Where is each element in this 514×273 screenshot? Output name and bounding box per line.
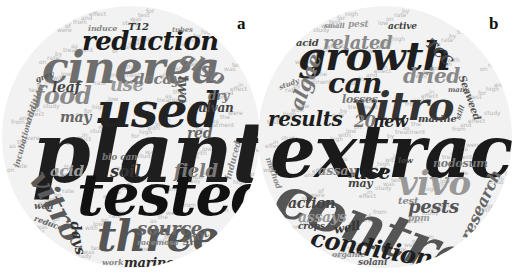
filler-word: on bbox=[195, 9, 202, 15]
cloud-word: ulvan bbox=[198, 102, 234, 114]
cloud-word: test bbox=[398, 196, 418, 206]
filler-word: for bbox=[146, 8, 154, 14]
filler-word: treatment bbox=[16, 22, 46, 28]
filler-word: as bbox=[24, 18, 31, 24]
filler-word: of bbox=[65, 23, 71, 29]
cloud-word: leaf bbox=[52, 80, 80, 94]
cloud-word: work bbox=[102, 258, 123, 266]
filler-word: in bbox=[20, 232, 25, 238]
filler-word: in bbox=[258, 6, 263, 12]
cloud-word: well bbox=[34, 202, 54, 211]
word-cloud-b: inwererateforeffecttheontestandaslowwasf… bbox=[258, 6, 512, 268]
cloud-word: may bbox=[60, 110, 91, 124]
filler-word: treatment bbox=[457, 29, 487, 35]
filler-word: of bbox=[221, 231, 227, 237]
filler-word: as bbox=[262, 50, 269, 56]
cloud-word: solani bbox=[358, 258, 387, 267]
cloud-word: T12 bbox=[128, 22, 149, 32]
cloud-word: losses bbox=[342, 94, 378, 105]
cloud-word: active bbox=[388, 22, 417, 31]
filler-word: high bbox=[248, 54, 260, 60]
filler-word: of bbox=[18, 256, 24, 262]
filler-word: rate bbox=[503, 195, 512, 201]
cloud-word: may bbox=[348, 178, 373, 189]
filler-word: for bbox=[290, 248, 298, 254]
filler-word: rate bbox=[250, 30, 260, 36]
panel-label-b: b bbox=[489, 14, 498, 34]
cloud-word: soil bbox=[110, 164, 141, 180]
filler-word: were bbox=[451, 9, 466, 15]
cloud-word: pest bbox=[348, 20, 369, 29]
cloud-word: tubes bbox=[172, 26, 193, 33]
filler-word: by bbox=[8, 26, 15, 32]
cloud-word: action bbox=[288, 196, 335, 210]
cloud-word: small bbox=[324, 22, 345, 29]
cloud-word: induce bbox=[88, 24, 117, 32]
cloud-word: assay bbox=[318, 164, 356, 177]
cloud-word: new bbox=[373, 114, 408, 130]
cloud-word: decay bbox=[134, 72, 180, 87]
panel-label-a: a bbox=[237, 14, 246, 34]
filler-word: for bbox=[493, 223, 501, 229]
cloud-word: racemosa bbox=[137, 238, 179, 246]
filler-word: treatment bbox=[504, 54, 512, 60]
filler-word: with bbox=[494, 82, 507, 88]
filler-word: for bbox=[478, 90, 486, 96]
filler-word: for bbox=[240, 58, 248, 64]
filler-word: of bbox=[506, 30, 512, 36]
cloud-word: two bbox=[176, 76, 190, 103]
cloud-word: marine bbox=[418, 114, 457, 124]
cloud-word: marine bbox=[124, 256, 174, 268]
filler-word: effect bbox=[280, 18, 297, 24]
cloud-word: dried bbox=[403, 66, 460, 86]
cloud-word: dry bbox=[208, 90, 229, 102]
filler-word: the bbox=[2, 6, 12, 12]
filler-word: effect bbox=[89, 11, 106, 17]
filler-word: on bbox=[242, 34, 249, 40]
cloud-word: many bbox=[448, 86, 469, 93]
filler-word: on bbox=[480, 66, 487, 72]
cloud-word: acid bbox=[296, 38, 319, 48]
cloud-word: nodosum bbox=[433, 158, 488, 169]
filler-word: by bbox=[402, 8, 409, 14]
word-cloud-a: theontestandaslowwasfromtreatmentwithstu… bbox=[2, 6, 260, 268]
cloud-word: crops bbox=[298, 222, 325, 231]
cloud-word: acid bbox=[50, 164, 84, 179]
filler-word: high bbox=[345, 11, 358, 17]
cloud-word: low bbox=[398, 156, 413, 164]
cloud-word: bio can bbox=[102, 153, 137, 162]
filler-word: and bbox=[34, 248, 45, 254]
filler-word: in bbox=[238, 82, 243, 88]
cloud-word: red bbox=[187, 126, 212, 140]
cloud-word: related bbox=[323, 34, 392, 52]
cloud-word: 20 bbox=[354, 114, 376, 130]
filler-word: on bbox=[495, 199, 502, 205]
filler-word: with bbox=[6, 50, 19, 56]
cloud-word: field bbox=[174, 162, 218, 180]
filler-word: by bbox=[496, 58, 503, 64]
cloud-word: ppm bbox=[408, 214, 430, 223]
filler-word: on bbox=[7, 167, 14, 173]
filler-word: treatment bbox=[219, 255, 249, 261]
cloud-word: organic bbox=[332, 250, 365, 258]
